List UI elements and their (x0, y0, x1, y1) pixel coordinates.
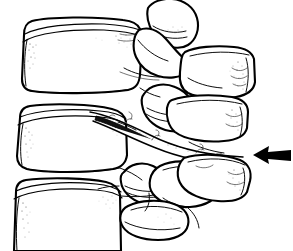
inferior-spinous-tip (120, 201, 188, 240)
spine-diagram (0, 0, 293, 251)
lower-vertebral-body (14, 178, 122, 251)
middle-vertebral-body (17, 104, 127, 172)
upper-vertebral-body (22, 17, 142, 93)
spine-illustration-figure (0, 0, 293, 251)
upper-spinous-process (180, 46, 255, 98)
middle-spinous-process (167, 95, 248, 141)
